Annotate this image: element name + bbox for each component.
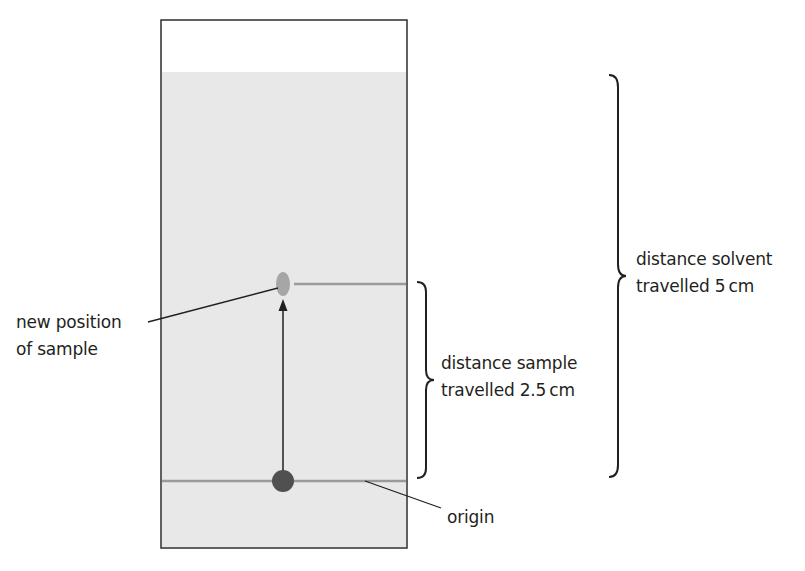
chromatography-diagram: new position of sample distance sample t…	[0, 0, 805, 571]
sample-distance-label: distance sample travelled 2.5 cm	[441, 350, 577, 404]
origin-label: origin	[447, 504, 494, 531]
solvent-distance-label-line2: travelled 5 cm	[636, 273, 772, 300]
sample-distance-label-line1: distance sample	[441, 350, 577, 377]
new-position-label-line1: new position	[16, 309, 121, 336]
sample-distance-label-line2: travelled 2.5 cm	[441, 377, 577, 404]
sample-spot-origin	[272, 470, 294, 492]
sample-distance-brace	[417, 282, 434, 478]
solvent-distance-label: distance solvent travelled 5 cm	[636, 246, 772, 300]
solvent-distance-label-line1: distance solvent	[636, 246, 772, 273]
sample-spot-new-position	[276, 272, 290, 296]
new-position-label: new position of sample	[16, 309, 121, 363]
new-position-label-line2: of sample	[16, 336, 121, 363]
solvent-distance-brace	[609, 75, 626, 477]
